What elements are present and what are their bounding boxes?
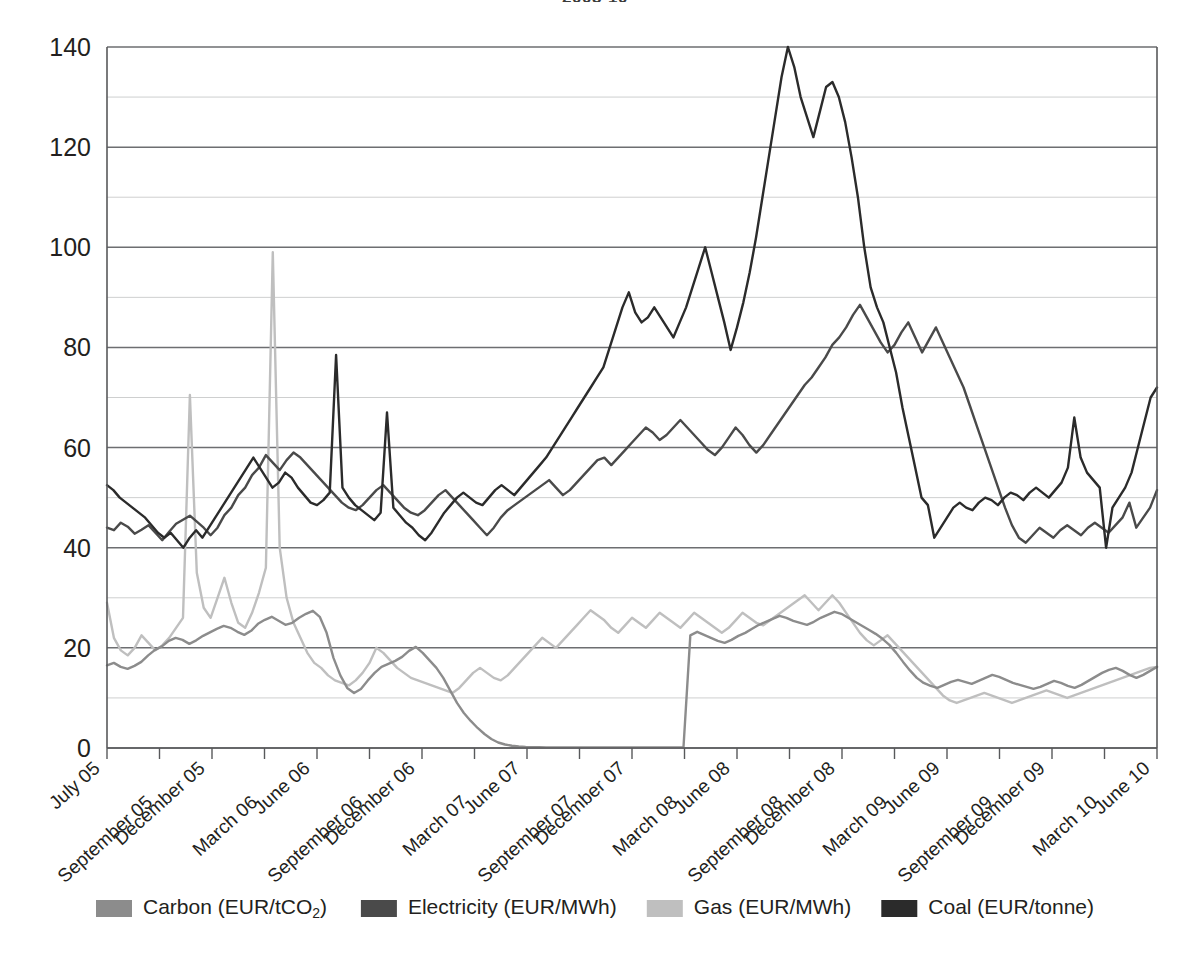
y-tick-label-20: 20 (63, 634, 91, 662)
axis-lines (107, 47, 1157, 759)
x-tick-label-june-10: June 10 (1089, 757, 1153, 818)
gridlines (107, 47, 1157, 748)
legend-electricity-swatch (361, 900, 397, 917)
chart-canvas: 020406080100120140 July 05September 05De… (0, 0, 1190, 955)
legend-coal-swatch (881, 900, 917, 917)
x-tick-label-december-07: December 07 (530, 757, 629, 849)
chart-title: 2005-10 (0, 0, 1190, 2)
x-tick-label-december-06: December 06 (320, 757, 419, 849)
x-tick-label-june-07: June 07 (459, 757, 523, 818)
chart-figure: 2005-10 020406080100120140 July 05Septem… (0, 0, 1190, 955)
x-tick-label-june-06: June 06 (249, 757, 313, 818)
legend-gas-label: Gas (EUR/MWh) (694, 895, 852, 918)
x-axis-tick-labels: July 05September 05December 05March 06Ju… (45, 757, 1154, 886)
y-tick-label-140: 140 (49, 33, 91, 61)
x-tick-label-december-09: December 09 (950, 757, 1049, 849)
series-line-carbon (107, 611, 1157, 748)
y-axis-tick-labels: 020406080100120140 (49, 33, 91, 762)
series-line-electricity (107, 305, 1157, 543)
legend-gas-swatch (647, 900, 683, 917)
x-tick-label-december-05: December 05 (110, 757, 209, 849)
legend-carbon: Carbon (EUR/tCO2) (96, 895, 327, 921)
legend-coal: Coal (EUR/tonne) (881, 895, 1094, 918)
y-tick-label-120: 120 (49, 133, 91, 161)
legend-gas: Gas (EUR/MWh) (647, 895, 852, 918)
x-tick-label-june-08: June 08 (669, 757, 733, 818)
series-line-gas (107, 252, 1157, 703)
legend-electricity: Electricity (EUR/MWh) (361, 895, 617, 918)
chart-legend: Carbon (EUR/tCO2)Electricity (EUR/MWh)Ga… (96, 895, 1094, 921)
legend-electricity-label: Electricity (EUR/MWh) (408, 895, 617, 918)
y-tick-label-40: 40 (63, 534, 91, 562)
legend-carbon-label: Carbon (EUR/tCO2) (143, 895, 327, 921)
x-tick-label-july-05: July 05 (45, 757, 104, 813)
x-tick-label-june-09: June 09 (879, 757, 943, 818)
legend-coal-label: Coal (EUR/tonne) (928, 895, 1094, 918)
y-tick-label-100: 100 (49, 233, 91, 261)
y-tick-label-60: 60 (63, 434, 91, 462)
legend-carbon-swatch (96, 900, 132, 917)
y-tick-label-80: 80 (63, 333, 91, 361)
x-tick-label-december-08: December 08 (740, 757, 839, 849)
